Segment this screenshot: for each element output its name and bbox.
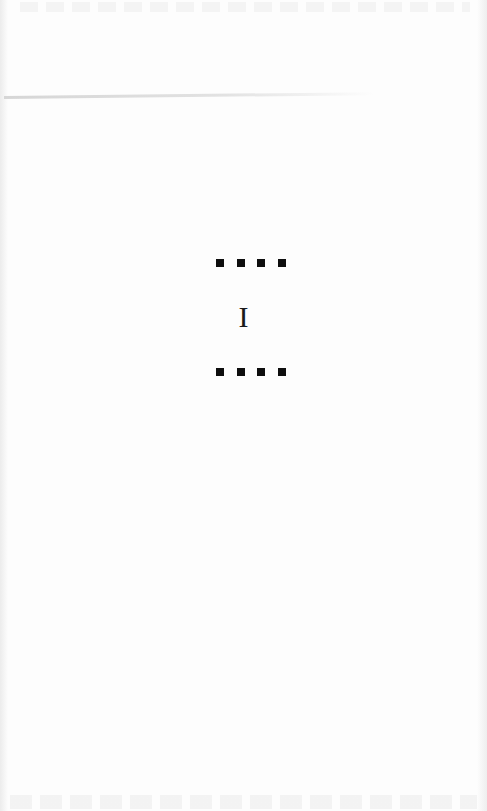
square-ornament-icon bbox=[257, 259, 265, 267]
show-through-text-top bbox=[20, 2, 470, 12]
page-edge-shadow-right bbox=[477, 0, 487, 811]
square-ornament-icon bbox=[257, 368, 265, 376]
square-ornament-icon bbox=[237, 259, 245, 267]
page-edge-shadow-left bbox=[0, 0, 8, 811]
square-ornament-icon bbox=[278, 368, 286, 376]
chapter-heading: I bbox=[0, 300, 487, 334]
square-ornament-icon bbox=[216, 259, 224, 267]
page-fold-line bbox=[4, 92, 374, 99]
square-ornament-icon bbox=[278, 259, 286, 267]
square-ornament-icon bbox=[216, 368, 224, 376]
square-ornament-icon bbox=[237, 368, 245, 376]
ornament-row-top bbox=[216, 259, 286, 268]
show-through-text-bottom bbox=[10, 795, 477, 809]
ornament-row-bottom bbox=[216, 368, 286, 377]
